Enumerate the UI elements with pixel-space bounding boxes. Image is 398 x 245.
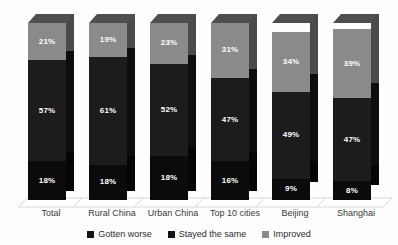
bar-shanghai-top-face [333, 14, 379, 23]
axis-label-top-10-cities: Top 10 cities [203, 206, 267, 220]
bar-total[interactable]: 18% 57% 21% [28, 23, 74, 200]
bar-beijing-side-face [310, 14, 318, 191]
segment-gotten-worse[interactable]: 18% [89, 165, 127, 200]
category-axis: Total Rural China Urban China Top 10 cit… [0, 206, 398, 222]
stacked-bar-chart: 18% 57% 21% 18% [0, 0, 398, 245]
segment-improved[interactable]: 23% [150, 23, 188, 64]
legend-swatch-icon [87, 231, 94, 238]
segment-label: 52% [161, 106, 177, 114]
bar-shanghai-front-face: 8% 47% 39% [333, 23, 371, 200]
bar-top-10-cities-side-face [249, 14, 257, 191]
segment-label: 61% [100, 107, 116, 115]
side-seg-same [249, 69, 257, 152]
plot-area: 18% 57% 21% 18% [0, 0, 398, 200]
segment-label: 57% [39, 107, 55, 115]
axis-label-beijing: Beijing [265, 206, 325, 220]
legend-swatch-icon [168, 231, 175, 238]
side-seg-same [310, 74, 318, 161]
side-seg-worse [188, 147, 196, 191]
segment-stayed-the-same[interactable]: 49% [272, 92, 310, 179]
segment-label: 19% [100, 36, 116, 44]
bar-rural-china-front-face: 18% 61% 19% [89, 23, 127, 200]
bar-urban-china-side-face [188, 14, 196, 191]
segment-stayed-the-same[interactable]: 61% [89, 57, 127, 165]
segment-stayed-the-same[interactable]: 47% [211, 78, 249, 161]
segment-label: 16% [222, 177, 238, 185]
bar-rural-china[interactable]: 18% 61% 19% [89, 23, 135, 200]
side-seg-same [188, 55, 196, 147]
legend-item-improved[interactable]: Improved [262, 229, 311, 239]
segment-improved[interactable]: 34% [272, 32, 310, 92]
bar-rural-china-side-face [127, 14, 135, 191]
segment-improved[interactable]: 39% [333, 29, 371, 98]
segment-label: 18% [39, 177, 55, 185]
segment-stayed-the-same[interactable]: 47% [333, 98, 371, 181]
bar-top-10-cities-front-face: 16% 47% 31% [211, 23, 249, 200]
segment-label: 23% [161, 39, 177, 47]
axis-label-shanghai: Shanghai [326, 206, 386, 220]
bar-total-front-face: 18% 57% 21% [28, 23, 66, 200]
side-seg-worse [66, 152, 74, 191]
segment-label: 18% [100, 178, 116, 186]
legend-item-gotten-worse[interactable]: Gotten worse [87, 229, 152, 239]
segment-label: 21% [39, 38, 55, 46]
segment-improved[interactable]: 21% [28, 23, 66, 60]
axis-label-total: Total [21, 206, 81, 220]
bar-beijing-front-face: 9% 49% 34% [272, 23, 310, 200]
segment-gotten-worse[interactable]: 18% [150, 156, 188, 200]
segment-gotten-worse[interactable]: 9% [272, 179, 310, 200]
side-seg-worse [310, 161, 318, 182]
bar-top-10-cities-top-face [211, 14, 257, 23]
legend-item-stayed-the-same[interactable]: Stayed the same [168, 229, 247, 239]
segment-label: 47% [222, 116, 238, 124]
segment-label: 8% [346, 187, 358, 195]
segment-gotten-worse[interactable]: 8% [333, 181, 371, 200]
segment-label: 47% [344, 136, 360, 144]
bar-total-side-face [66, 14, 74, 191]
bar-urban-china-front-face: 18% 52% 23% [150, 23, 188, 200]
side-seg-same [127, 48, 135, 156]
segment-improved[interactable]: 31% [211, 23, 249, 78]
side-seg-same [371, 83, 379, 166]
side-seg-worse [371, 166, 379, 185]
bar-rural-china-top-face [89, 14, 135, 23]
segment-label: 9% [285, 185, 297, 193]
bar-shanghai-side-face [371, 14, 379, 191]
segment-gotten-worse[interactable]: 18% [28, 161, 66, 200]
bar-total-top-face [28, 14, 74, 23]
side-seg-improved [310, 14, 318, 74]
legend-swatch-icon [262, 231, 269, 238]
segment-stayed-the-same[interactable]: 52% [150, 64, 188, 156]
bar-beijing-top-face [272, 14, 318, 23]
side-seg-improved [371, 14, 379, 83]
segment-label: 18% [161, 174, 177, 182]
legend-label: Stayed the same [179, 229, 247, 239]
side-seg-worse [249, 152, 257, 191]
bar-top-10-cities[interactable]: 16% 47% 31% [211, 23, 257, 200]
chart-legend: Gotten worse Stayed the same Improved [0, 226, 398, 242]
bar-urban-china[interactable]: 18% 52% 23% [150, 23, 196, 200]
segment-label: 31% [222, 46, 238, 54]
axis-label-rural-china: Rural China [82, 206, 142, 220]
segment-label: 34% [283, 58, 299, 66]
bar-beijing[interactable]: 9% 49% 34% [272, 23, 318, 200]
axis-label-urban-china: Urban China [143, 206, 203, 220]
bar-urban-china-top-face [150, 14, 196, 23]
legend-label: Improved [273, 229, 311, 239]
segment-label: 39% [344, 60, 360, 68]
segment-stayed-the-same[interactable]: 57% [28, 60, 66, 161]
side-seg-same [66, 51, 74, 152]
segment-gotten-worse[interactable]: 16% [211, 161, 249, 200]
bar-shanghai[interactable]: 8% 47% 39% [333, 23, 379, 200]
segment-improved[interactable]: 19% [89, 23, 127, 57]
side-seg-worse [127, 156, 135, 191]
legend-label: Gotten worse [98, 229, 152, 239]
segment-label: 49% [283, 131, 299, 139]
